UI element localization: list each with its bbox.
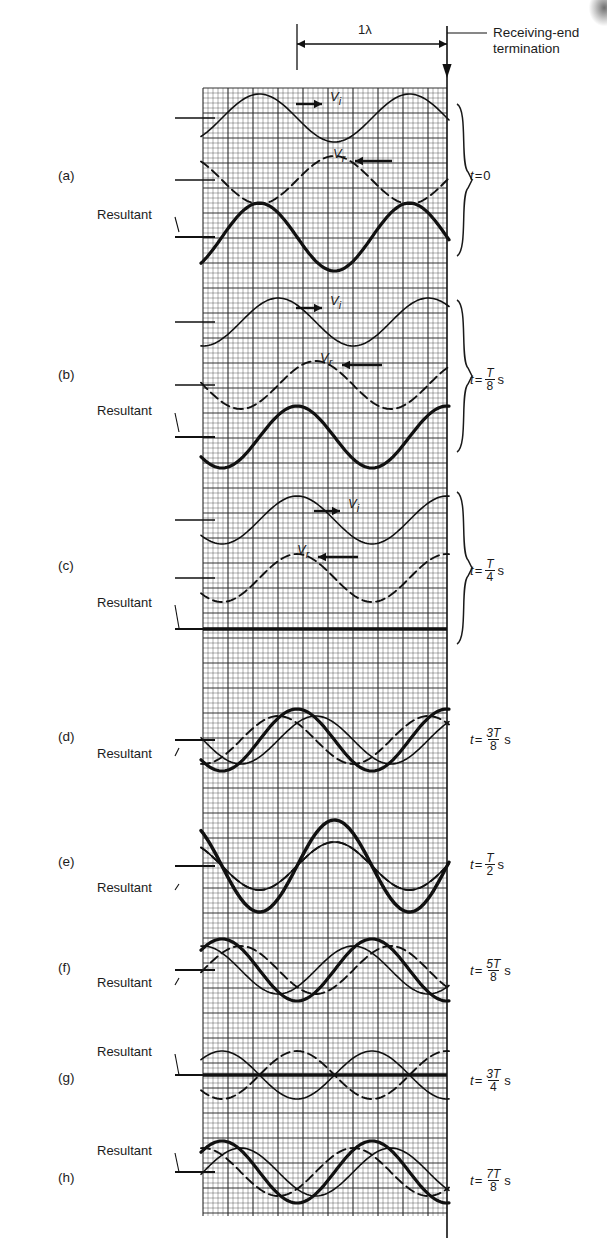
resultant-leader — [175, 413, 179, 432]
time-label-g: t=3T4s — [470, 1068, 511, 1093]
time-label-f: t=5T8s — [470, 958, 511, 983]
reflected-wave-label-c: Vr — [297, 542, 309, 560]
panel-letter-d: (d) — [58, 729, 75, 744]
page-corner-artifact — [589, 0, 607, 26]
resultant-leader — [175, 217, 179, 232]
panel-letter-g: (g) — [58, 1070, 75, 1085]
panel-letter-b: (b) — [58, 367, 75, 382]
grid-background — [203, 88, 447, 1216]
resultant-label-b: Resultant — [97, 403, 152, 418]
resultant-label-c: Resultant — [97, 595, 152, 610]
panel-letter-a: (a) — [58, 168, 75, 183]
resultant-leader — [175, 1054, 179, 1075]
panel-letter-e: (e) — [58, 854, 75, 869]
standing-wave-diagram — [0, 0, 607, 1249]
time-label-c: t=T4s — [470, 558, 504, 583]
reflected-wave-label-a: Vr — [333, 146, 345, 164]
resultant-leader — [175, 884, 179, 890]
panel-letter-f: (f) — [58, 960, 71, 975]
resultant-leader — [175, 978, 179, 985]
resultant-leader — [175, 605, 179, 628]
panel-letter-c: (c) — [58, 558, 74, 573]
termination-arrow — [442, 64, 451, 78]
resultant-leader — [175, 1153, 179, 1172]
incident-wave-label-a: Vi — [330, 89, 341, 107]
resultant-label-a: Resultant — [97, 207, 152, 222]
receiving-end-termination-label: Receiving-end termination — [493, 25, 579, 57]
resultant-label-f: Resultant — [97, 975, 152, 990]
time-label-e: t=T2s — [470, 852, 504, 877]
dimension-arrow-right — [439, 40, 447, 48]
figure-canvas: Receiving-end termination1λ(a)ResultantV… — [0, 0, 607, 1249]
time-label-h: t=7T8s — [470, 1168, 511, 1193]
reflected-wave-label-b: Vr — [320, 350, 332, 368]
dimension-arrow-left — [297, 40, 305, 48]
time-label-d: t=3T8s — [470, 727, 511, 752]
resultant-label-e: Resultant — [97, 880, 152, 895]
resultant-label-h: Resultant — [97, 1143, 152, 1158]
incident-wave-label-b: Vi — [330, 293, 341, 311]
receiving-end-line2: termination — [493, 41, 560, 56]
receiving-end-line1: Receiving-end — [493, 25, 579, 40]
resultant-leader — [175, 748, 179, 756]
time-label-b: t=T8s — [470, 367, 504, 392]
resultant-label-d: Resultant — [97, 746, 152, 761]
resultant-label-g: Resultant — [97, 1044, 152, 1059]
time-label-a: t=0 — [470, 168, 490, 183]
wavelength-label: 1λ — [358, 22, 372, 37]
incident-wave-label-c: Vi — [348, 496, 359, 514]
panel-letter-h: (h) — [58, 1170, 75, 1185]
wavelength-dimension — [297, 24, 447, 70]
